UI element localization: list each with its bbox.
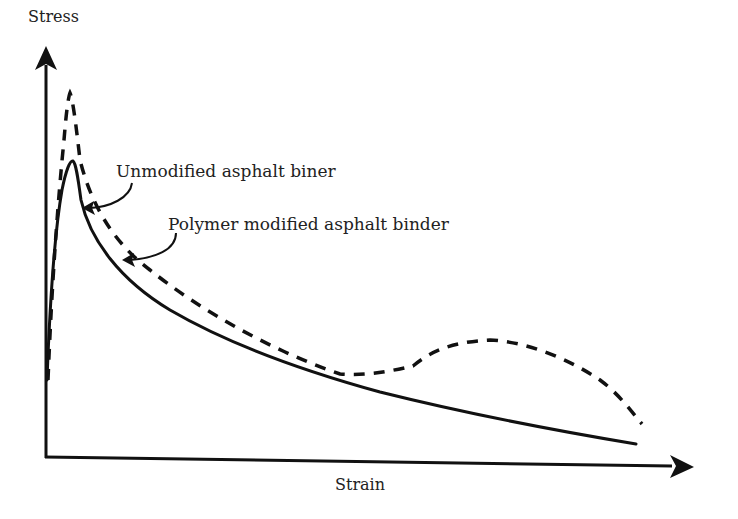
x-axis-arrowhead-icon: [670, 455, 694, 478]
annotation-unmodified-label: Unmodified asphalt biner: [116, 161, 336, 181]
annotation-unmodified: Unmodified asphalt biner: [82, 161, 336, 215]
stress-strain-chart: Stress Strain Unmodified asphalt biner P…: [0, 0, 738, 519]
unmodified-binder-curve: [47, 161, 636, 444]
annotation-polymer-label: Polymer modified asphalt binder: [168, 214, 450, 234]
annotation-polymer: Polymer modified asphalt binder: [122, 214, 450, 267]
annotation-polymer-arrow: [130, 233, 176, 260]
x-axis-label: Strain: [335, 475, 385, 494]
y-axis-label: Stress: [28, 7, 79, 26]
